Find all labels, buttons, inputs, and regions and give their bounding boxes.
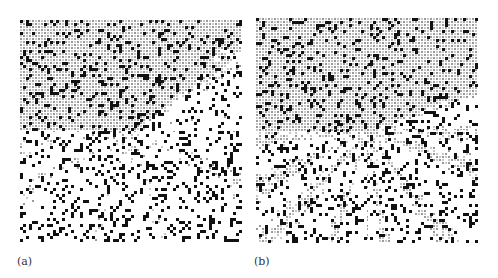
panel-a-label: (a) [17, 255, 32, 268]
pattern-canvas-b [256, 18, 480, 245]
panel-b-pattern [256, 18, 480, 245]
panel-a-pattern [20, 20, 242, 244]
panel-b-label: (b) [254, 255, 270, 268]
pattern-canvas-a [20, 20, 242, 244]
